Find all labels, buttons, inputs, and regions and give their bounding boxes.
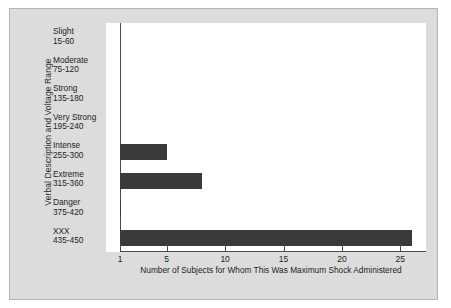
category-voltage-range: 195-240: [53, 122, 109, 132]
category-name: Intense: [53, 140, 80, 150]
x-axis-tick-label: 10: [220, 254, 229, 264]
category-label: Danger375-420: [53, 198, 109, 217]
category-voltage-range: 15-60: [53, 37, 109, 47]
category-name: Very Strong: [53, 112, 96, 122]
category-voltage-range: 75-120: [53, 65, 109, 75]
x-axis-tick: [225, 244, 226, 251]
chart-figure: Verbal Description and Voltage Range Sli…: [9, 8, 438, 300]
category-label: XXX435-450: [53, 227, 109, 246]
category-voltage-range: 255-300: [53, 151, 109, 161]
bar: [120, 173, 202, 189]
bar: [120, 201, 121, 217]
x-axis-tick: [400, 244, 401, 251]
category-name: XXX: [53, 226, 70, 236]
x-axis-tick: [284, 244, 285, 251]
category-voltage-range: 135-180: [53, 94, 109, 104]
category-name: Danger: [53, 197, 80, 207]
category-voltage-range: 375-420: [53, 208, 109, 218]
y-axis-line: [120, 23, 121, 252]
category-label: Strong135-180: [53, 84, 109, 103]
category-label: Slight15-60: [53, 27, 109, 46]
x-axis-tick-label: 5: [164, 254, 169, 264]
x-axis-caption: Number of Subjects for Whom This Was Max…: [106, 265, 436, 275]
x-axis-tick: [167, 244, 168, 251]
category-name: Moderate: [53, 55, 88, 65]
x-axis-tick: [120, 244, 121, 251]
category-label: Intense255-300: [53, 141, 109, 160]
bar: [120, 144, 167, 160]
category-name: Slight: [53, 26, 74, 36]
category-name: Strong: [53, 83, 77, 93]
category-name: Extreme: [53, 169, 84, 179]
category-label-column: Slight15-60Moderate75-120Strong135-180Ve…: [53, 23, 105, 251]
x-axis-tick-label: 25: [396, 254, 405, 264]
x-axis-tick: [342, 244, 343, 251]
category-voltage-range: 315-360: [53, 179, 109, 189]
x-axis-tick-label: 1: [118, 254, 123, 264]
category-voltage-range: 435-450: [53, 236, 109, 246]
x-axis-tick-label: 15: [279, 254, 288, 264]
bar: [120, 230, 412, 246]
category-label: Moderate75-120: [53, 56, 109, 75]
plot-area: [106, 23, 426, 252]
x-axis-line: [120, 251, 426, 252]
y-axis-title: Verbal Description and Voltage Range: [43, 32, 53, 232]
category-label: Very Strong195-240: [53, 113, 109, 132]
category-label: Extreme315-360: [53, 170, 109, 189]
x-axis-tick-label: 20: [337, 254, 346, 264]
